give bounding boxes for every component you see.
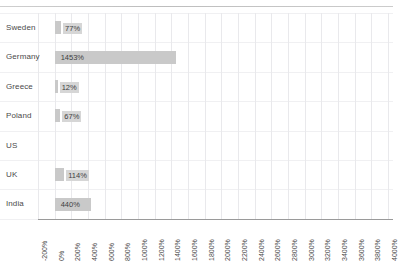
x-tick-label: 1400%	[174, 239, 181, 261]
category-label: India	[6, 199, 24, 208]
x-tick-label: 2200%	[241, 239, 248, 261]
x-tick-label: 200%	[74, 243, 81, 261]
gridline	[38, 13, 39, 219]
x-axis-tick-labels: -200%0%200%400%600%800%1000%1200%1400%16…	[0, 221, 393, 263]
x-tick-label: 4000%	[391, 239, 398, 261]
category-label: Sweden	[6, 23, 36, 32]
bar	[55, 168, 65, 181]
data-label: 12%	[60, 82, 79, 93]
gridline	[288, 13, 289, 219]
row-separator	[0, 160, 393, 161]
row-separator	[0, 72, 393, 73]
top-divider	[0, 6, 393, 7]
x-tick-label: 1000%	[141, 239, 148, 261]
x-tick-label: 1800%	[208, 239, 215, 261]
data-label: 67%	[62, 111, 81, 122]
x-tick-label: 600%	[108, 243, 115, 261]
bar	[55, 21, 61, 34]
x-tick-label: 3200%	[324, 239, 331, 261]
data-label: 440%	[59, 199, 82, 210]
gridline	[305, 13, 306, 219]
category-label: US	[6, 141, 17, 150]
gridline	[121, 13, 122, 219]
gridline	[238, 13, 239, 219]
x-tick-label: 1600%	[191, 239, 198, 261]
data-label: 77%	[63, 23, 82, 34]
gridline	[205, 13, 206, 219]
category-label: Greece	[6, 82, 33, 91]
gridline	[355, 13, 356, 219]
x-tick-label: 1200%	[158, 239, 165, 261]
bar	[55, 109, 61, 122]
x-tick-label: 2800%	[291, 239, 298, 261]
row-separator	[0, 13, 393, 14]
category-label: Germany	[6, 52, 40, 61]
category-label: Poland	[6, 111, 32, 120]
x-tick-label: 400%	[91, 243, 98, 261]
row-separator	[0, 42, 393, 43]
gridline	[171, 13, 172, 219]
row-separator	[0, 101, 393, 102]
x-tick-label: 2400%	[258, 239, 265, 261]
gridline	[388, 13, 389, 219]
gridline	[188, 13, 189, 219]
x-tick-label: 3000%	[308, 239, 315, 261]
gridline	[88, 13, 89, 219]
x-tick-label: 2600%	[274, 239, 281, 261]
gridline	[371, 13, 372, 219]
x-tick-label: 0%	[58, 251, 65, 261]
bar	[55, 80, 58, 93]
x-tick-label: 800%	[124, 243, 131, 261]
gridline	[321, 13, 322, 219]
category-label: UK	[6, 170, 17, 179]
x-tick-label: 2000%	[224, 239, 231, 261]
x-tick-label: 3600%	[358, 239, 365, 261]
gridline	[221, 13, 222, 219]
row-separator	[0, 189, 393, 190]
data-label: 1453%	[59, 52, 86, 63]
x-tick-label: 3400%	[341, 239, 348, 261]
gridline	[338, 13, 339, 219]
x-tick-label: 3800%	[374, 239, 381, 261]
gridline	[271, 13, 272, 219]
data-label: 114%	[66, 170, 89, 181]
gridline	[155, 13, 156, 219]
row-separator	[0, 131, 393, 132]
x-tick-label: -200%	[41, 241, 48, 261]
gridline	[105, 13, 106, 219]
gridline	[255, 13, 256, 219]
x-axis-line	[38, 219, 393, 220]
gridline	[138, 13, 139, 219]
